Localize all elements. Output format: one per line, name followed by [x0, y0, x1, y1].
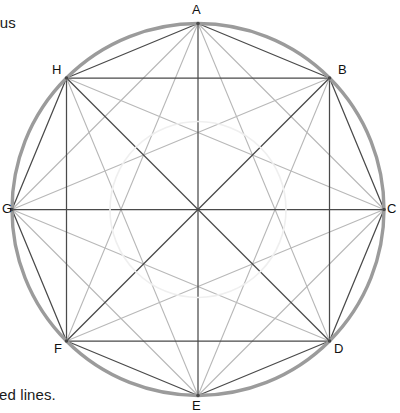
- vertex-label-e: E: [192, 398, 201, 413]
- vertex-label-b: B: [338, 62, 347, 77]
- vertex-dot-b: [328, 76, 332, 80]
- vertex-label-a: A: [192, 2, 201, 17]
- vertex-dot-a: [196, 22, 200, 26]
- vertex-dot-c: [382, 208, 386, 212]
- vertex-dot-d: [328, 339, 332, 343]
- chord-ad: [198, 24, 330, 342]
- vertex-label-g: G: [2, 201, 12, 216]
- chord-eh: [67, 78, 199, 396]
- chord-cf: [67, 210, 385, 342]
- vertex-label-c: C: [387, 201, 396, 216]
- chord-bg: [12, 78, 330, 210]
- radius-text-fragment: dius: [0, 14, 16, 31]
- vertex-dot-f: [65, 339, 69, 343]
- vertex-label-h: H: [52, 62, 61, 77]
- chord-ch: [67, 78, 385, 210]
- primary-chords-group: [12, 24, 384, 396]
- chord-af: [67, 24, 199, 342]
- geometry-figure: ABCDEFGH dius red lines.: [0, 0, 400, 413]
- chord-be: [198, 78, 330, 396]
- vertex-dot-h: [65, 76, 69, 80]
- vertex-label-d: D: [334, 341, 343, 356]
- vertex-label-f: F: [54, 341, 62, 356]
- red-lines-text-fragment: red lines.: [0, 386, 56, 403]
- chord-dg: [12, 210, 330, 342]
- vertex-dot-e: [196, 394, 200, 398]
